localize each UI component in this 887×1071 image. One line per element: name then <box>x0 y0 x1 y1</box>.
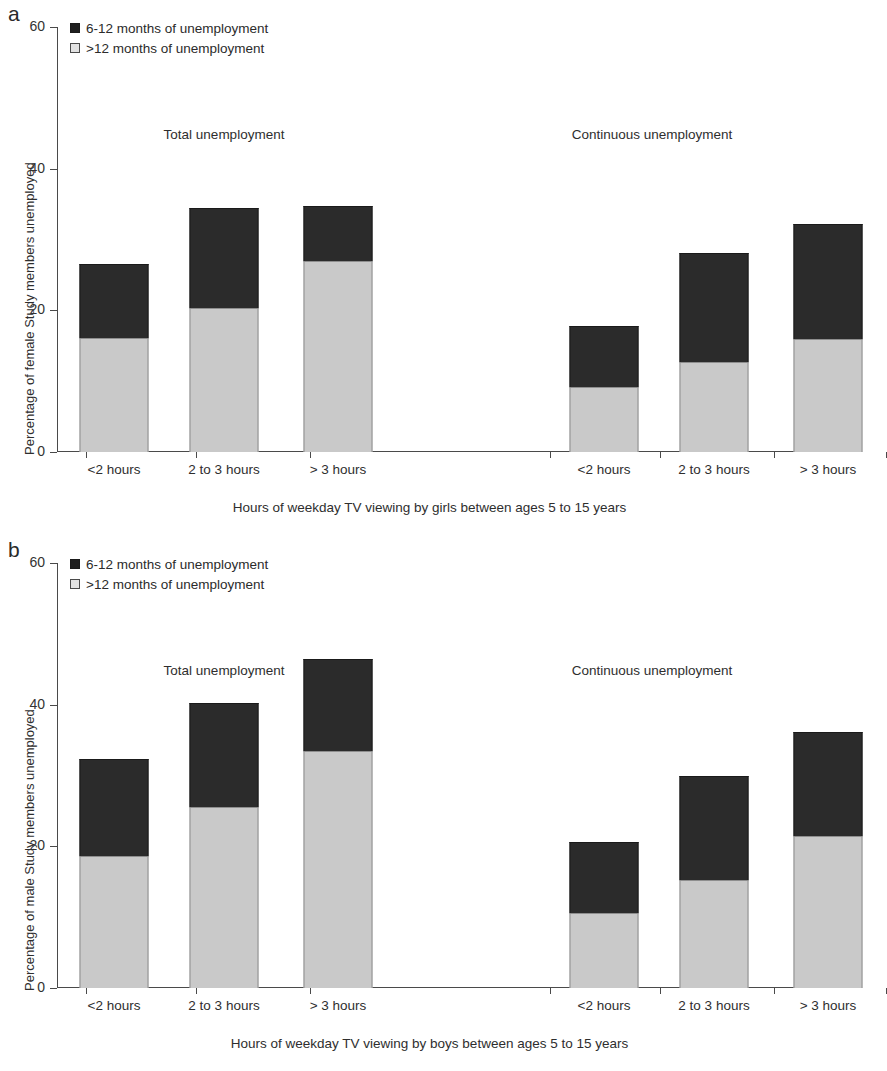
bar-segment-over-12-months <box>304 261 373 452</box>
x-axis-tick-label: > 3 hours <box>310 998 367 1013</box>
x-axis-tick-label: > 3 hours <box>800 462 857 477</box>
bar-stack <box>570 326 639 452</box>
y-axis-tick-label: 60 <box>29 18 45 34</box>
panel-a-y-axis <box>57 27 58 452</box>
y-axis-tick-label: 20 <box>29 837 45 853</box>
x-axis-tick <box>86 452 87 458</box>
x-axis-tick-label: <2 hours <box>88 462 141 477</box>
x-axis-tick-label: > 3 hours <box>800 998 857 1013</box>
y-axis-tick-label: 40 <box>29 696 45 712</box>
bar-segment-6-12-months <box>794 224 863 339</box>
bar-stack <box>80 759 149 989</box>
bar-segment-over-12-months <box>680 362 749 452</box>
bar-segment-over-12-months <box>190 807 259 988</box>
x-axis-tick-label: 2 to 3 hours <box>188 462 259 477</box>
x-axis-tick-label: 2 to 3 hours <box>678 462 749 477</box>
panel-b: b Percentage of male Study members unemp… <box>0 536 859 1071</box>
x-axis-tick-label: <2 hours <box>578 462 631 477</box>
x-axis-tick <box>660 452 661 458</box>
x-axis-tick-label: <2 hours <box>88 998 141 1013</box>
x-axis-tick <box>774 988 775 994</box>
bar-stack <box>794 224 863 452</box>
bar-stack <box>680 253 749 452</box>
bar-stack <box>304 659 373 988</box>
x-axis-tick <box>196 452 197 458</box>
bar-segment-over-12-months <box>570 913 639 988</box>
x-axis-tick <box>550 452 551 458</box>
y-axis-tick: 0 <box>50 452 57 453</box>
bar-segment-over-12-months <box>794 836 863 988</box>
x-axis-tick <box>660 988 661 994</box>
x-axis-tick <box>196 988 197 994</box>
bar-segment-over-12-months <box>570 387 639 452</box>
x-axis-tick-label: 2 to 3 hours <box>678 998 749 1013</box>
bar-segment-6-12-months <box>680 253 749 362</box>
bar-segment-6-12-months <box>680 776 749 880</box>
y-axis-tick: 0 <box>50 988 57 989</box>
y-axis-tick: 40 <box>50 705 57 706</box>
y-axis-tick-label: 40 <box>29 160 45 176</box>
x-axis-tick-label: > 3 hours <box>310 462 367 477</box>
panel-a-x-axis-title: Hours of weekday TV viewing by girls bet… <box>0 500 859 515</box>
bar-segment-over-12-months <box>794 339 863 452</box>
bar-segment-6-12-months <box>80 264 149 338</box>
bar-stack <box>304 206 373 452</box>
y-axis-tick-label: 0 <box>37 443 45 459</box>
panel-b-letter: b <box>8 538 20 562</box>
y-axis-tick: 20 <box>50 310 57 311</box>
bar-segment-6-12-months <box>80 759 149 857</box>
bar-stack <box>794 732 863 988</box>
bar-stack <box>570 842 639 988</box>
bar-segment-over-12-months <box>80 856 149 988</box>
x-axis-tick <box>550 988 551 994</box>
bar-stack <box>190 703 259 988</box>
bar-segment-6-12-months <box>190 208 259 308</box>
bar-segment-6-12-months <box>190 703 259 807</box>
bar-segment-over-12-months <box>190 308 259 453</box>
y-axis-tick: 20 <box>50 846 57 847</box>
bar-segment-6-12-months <box>570 326 639 387</box>
panel-a-plot-area: 0204060<2 hours2 to 3 hours> 3 hours<2 h… <box>57 27 847 452</box>
bar-segment-over-12-months <box>80 338 149 452</box>
y-axis-tick-label: 0 <box>37 979 45 995</box>
bar-segment-over-12-months <box>304 751 373 988</box>
panel-b-y-axis <box>57 563 58 988</box>
bar-stack <box>680 776 749 988</box>
x-axis-tick <box>774 452 775 458</box>
bar-stack <box>80 264 149 452</box>
bar-segment-6-12-months <box>304 206 373 261</box>
bar-segment-over-12-months <box>680 880 749 988</box>
y-axis-tick: 60 <box>50 27 57 28</box>
panel-b-x-axis-title: Hours of weekday TV viewing by boys betw… <box>0 1036 859 1051</box>
bar-stack <box>190 208 259 452</box>
bar-segment-6-12-months <box>570 842 639 913</box>
x-axis-tick-label: <2 hours <box>578 998 631 1013</box>
panel-b-plot-area: 0204060<2 hours2 to 3 hours> 3 hours<2 h… <box>57 563 847 988</box>
panel-a: a Percentage of female Study members une… <box>0 0 859 536</box>
y-axis-tick: 60 <box>50 563 57 564</box>
x-axis-tick <box>310 988 311 994</box>
panel-a-letter: a <box>8 2 20 26</box>
x-axis-tick <box>310 452 311 458</box>
x-axis-tick-label: 2 to 3 hours <box>188 998 259 1013</box>
y-axis-tick-label: 60 <box>29 554 45 570</box>
bar-segment-6-12-months <box>304 659 373 750</box>
x-axis-tick <box>86 988 87 994</box>
bar-segment-6-12-months <box>794 732 863 837</box>
y-axis-tick: 40 <box>50 169 57 170</box>
y-axis-tick-label: 20 <box>29 301 45 317</box>
